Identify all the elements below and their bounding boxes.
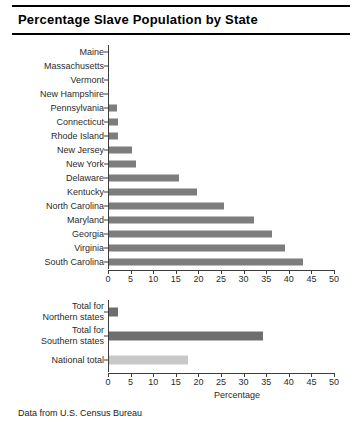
bar-row: New Jersey bbox=[0, 143, 362, 157]
states-plot-area: MaineMassachusettsVermontNew HampshirePe… bbox=[0, 45, 362, 269]
y-axis-tick bbox=[104, 150, 108, 151]
bar-row: Total for Northern states bbox=[0, 300, 362, 324]
bar bbox=[109, 217, 254, 224]
x-axis-tick-label: 20 bbox=[193, 377, 203, 388]
bar-row: South Carolina bbox=[0, 255, 362, 269]
bar-row: Massachusetts bbox=[0, 59, 362, 73]
y-axis-tick bbox=[104, 248, 108, 249]
states-x-axis: 05101520253035404550 bbox=[0, 270, 362, 286]
y-axis-tick bbox=[104, 136, 108, 137]
category-label: New Jersey bbox=[57, 145, 104, 155]
x-axis-tick-label: 15 bbox=[171, 274, 181, 285]
bar-row: Vermont bbox=[0, 73, 362, 87]
y-axis-tick bbox=[104, 108, 108, 109]
totals-panel: Total for Northern statesTotal for South… bbox=[0, 300, 362, 400]
bar-row: Pennsylvania bbox=[0, 101, 362, 115]
bar-row: Georgia bbox=[0, 227, 362, 241]
category-label: Georgia bbox=[72, 229, 104, 239]
bar-row: Total for Southern states bbox=[0, 324, 362, 348]
bar bbox=[109, 175, 179, 182]
category-label: Rhode Island bbox=[51, 131, 104, 141]
bar bbox=[109, 203, 224, 210]
source-note: Data from U.S. Census Bureau bbox=[18, 408, 142, 418]
bar-row: Maine bbox=[0, 45, 362, 59]
x-axis-tick-label: 25 bbox=[216, 274, 226, 285]
y-axis-tick bbox=[104, 192, 108, 193]
category-label: New York bbox=[66, 159, 104, 169]
totals-plot-area: Total for Northern statesTotal for South… bbox=[0, 300, 362, 372]
x-axis-tick-label: 30 bbox=[239, 274, 249, 285]
x-axis-tick-label: 5 bbox=[128, 274, 133, 285]
x-axis-tick-label: 35 bbox=[261, 377, 271, 388]
bar-row: Virginia bbox=[0, 241, 362, 255]
bar-row: New York bbox=[0, 157, 362, 171]
category-label: Maryland bbox=[67, 215, 104, 225]
x-axis-tick-label: 10 bbox=[148, 377, 158, 388]
bar-row: Kentucky bbox=[0, 185, 362, 199]
page-title: Percentage Slave Population by State bbox=[18, 12, 350, 28]
bar-row: North Carolina bbox=[0, 199, 362, 213]
x-axis-tick-label: 35 bbox=[261, 274, 271, 285]
bar bbox=[109, 189, 197, 196]
y-axis-tick bbox=[104, 360, 108, 361]
bar-row: Rhode Island bbox=[0, 129, 362, 143]
bar bbox=[109, 105, 117, 112]
y-axis-tick bbox=[104, 52, 108, 53]
category-label: Delaware bbox=[66, 173, 104, 183]
x-axis-tick-label: 15 bbox=[171, 377, 181, 388]
category-label: Maine bbox=[79, 47, 104, 57]
category-label: Kentucky bbox=[67, 187, 104, 197]
x-axis-tick-label: 10 bbox=[148, 274, 158, 285]
bar bbox=[109, 259, 303, 266]
bar bbox=[109, 133, 118, 140]
y-axis-tick bbox=[104, 178, 108, 179]
x-axis-tick-label: 50 bbox=[329, 377, 339, 388]
x-axis-tick-label: 45 bbox=[306, 377, 316, 388]
category-label: National total bbox=[51, 355, 104, 366]
x-axis-tick-label: 40 bbox=[284, 274, 294, 285]
bar bbox=[109, 332, 263, 341]
bar-row: Delaware bbox=[0, 171, 362, 185]
y-axis-tick bbox=[104, 206, 108, 207]
y-axis-tick bbox=[104, 220, 108, 221]
y-axis-tick bbox=[104, 94, 108, 95]
x-axis-tick-label: 40 bbox=[284, 377, 294, 388]
bar-row: New Hampshire bbox=[0, 87, 362, 101]
title-block: Percentage Slave Population by State bbox=[12, 5, 350, 35]
x-axis-tick-label: 0 bbox=[105, 274, 110, 285]
bar bbox=[109, 147, 132, 154]
category-label: Pennsylvania bbox=[50, 103, 104, 113]
y-axis-tick bbox=[104, 66, 108, 67]
category-label: North Carolina bbox=[46, 201, 104, 211]
category-label: Virginia bbox=[74, 243, 104, 253]
bar-row: National total bbox=[0, 348, 362, 372]
category-label: New Hampshire bbox=[40, 89, 104, 99]
x-axis-tick-label: 0 bbox=[105, 377, 110, 388]
x-axis-tick-label: 30 bbox=[239, 377, 249, 388]
y-axis-tick bbox=[104, 122, 108, 123]
category-label: Connecticut bbox=[56, 117, 104, 127]
y-axis-tick bbox=[104, 164, 108, 165]
bar bbox=[109, 245, 285, 252]
x-axis-tick-label: 45 bbox=[306, 274, 316, 285]
bar bbox=[109, 231, 272, 238]
y-axis-tick bbox=[104, 336, 108, 337]
y-axis-tick bbox=[104, 80, 108, 81]
x-axis-tick-label: 5 bbox=[128, 377, 133, 388]
category-label: Total for Northern states bbox=[42, 301, 104, 323]
bar bbox=[109, 161, 136, 168]
x-axis-tick-label: 20 bbox=[193, 274, 203, 285]
bar-row: Maryland bbox=[0, 213, 362, 227]
x-axis-tick-label: 50 bbox=[329, 274, 339, 285]
totals-x-axis: 05101520253035404550 bbox=[0, 373, 362, 389]
x-axis-title: Percentage bbox=[0, 390, 362, 400]
bar bbox=[109, 308, 118, 317]
y-axis-tick bbox=[104, 312, 108, 313]
y-axis-tick bbox=[104, 262, 108, 263]
category-label: Total for Southern states bbox=[41, 325, 104, 347]
y-axis-tick bbox=[104, 234, 108, 235]
category-label: Massachusetts bbox=[44, 61, 104, 71]
bar bbox=[109, 119, 118, 126]
bar-row: Connecticut bbox=[0, 115, 362, 129]
category-label: South Carolina bbox=[44, 257, 104, 267]
